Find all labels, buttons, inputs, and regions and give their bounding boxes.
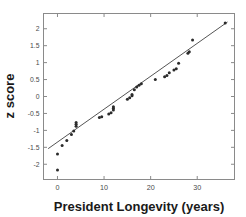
data-point [70,133,73,136]
data-point [224,21,227,24]
data-point [56,169,59,172]
data-point [140,82,143,85]
y-tick-label: -1 [33,127,39,134]
data-point [100,115,103,118]
figure-background [0,0,246,217]
y-tick-label: 0.5 [30,76,40,83]
data-point [168,71,171,74]
y-tick-label: 1.5 [30,42,40,49]
data-point [165,74,168,77]
data-point [154,78,157,81]
y-tick-label: -1.5 [28,144,40,151]
data-point [175,67,178,70]
x-tick-label: 20 [147,183,155,192]
data-point [191,38,194,41]
data-point [188,50,191,53]
data-point [61,144,64,147]
data-point [177,62,180,65]
data-point [133,88,136,91]
data-point [128,96,131,99]
data-point [112,105,115,108]
data-point [65,139,68,142]
y-axis-title: z score [2,74,17,119]
x-tick-label: 0 [55,183,59,192]
data-point [56,153,59,156]
y-tick-label: 1 [36,59,40,66]
y-tick-label: -2 [33,161,39,168]
scatter-plot: -2-1.5-1-0.500.511.52 0102030 President … [0,0,246,217]
x-axis-title: President Longevity (years) [54,199,225,214]
data-point [131,93,134,96]
data-point [72,130,75,133]
data-point [110,111,113,114]
x-tick-label: 10 [100,183,108,192]
y-tick-label: 0 [36,93,40,100]
y-tick-label: 2 [36,25,40,32]
chart-figure: -2-1.5-1-0.500.511.52 0102030 President … [0,0,246,217]
x-tick-label: 30 [193,183,201,192]
y-tick-label: -0.5 [28,110,40,117]
data-point [75,121,78,124]
